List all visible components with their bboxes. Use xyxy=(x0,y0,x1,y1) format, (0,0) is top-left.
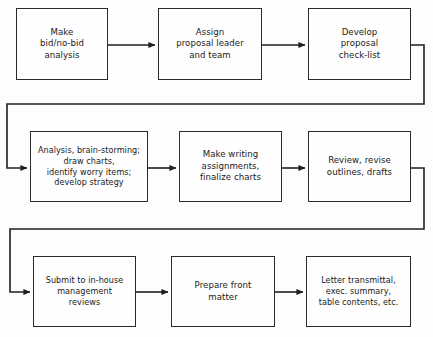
flow-node-submit-to-in-house-management[interactable]: Submit to in-house management reviews xyxy=(33,256,136,327)
flowchart-canvas: Make bid/no-bid analysis Assign proposal… xyxy=(0,0,433,337)
flow-node-label: Make writing assignments, finalize chart… xyxy=(197,149,264,183)
flow-node-label: Prepare front matter xyxy=(192,280,255,303)
flow-node-assign-proposal-leader[interactable]: Assign proposal leader and team xyxy=(158,8,262,80)
flow-node-prepare-front-matter[interactable]: Prepare front matter xyxy=(171,256,275,327)
flow-node-make-bid-no-bid-analysis[interactable]: Make bid/no-bid analysis xyxy=(16,8,108,80)
flow-node-label: Assign proposal leader and team xyxy=(173,27,247,61)
flow-node-develop-proposal-check-list[interactable]: Develop proposal check-list xyxy=(308,8,411,80)
flow-node-letter-transmittal[interactable]: Letter transmittal, exec. summary, table… xyxy=(306,256,411,327)
flow-node-review-revise-outlines[interactable]: Review, revise outlines, drafts xyxy=(308,131,411,202)
flow-node-label: Develop proposal check-list xyxy=(336,27,383,61)
flow-node-analysis-brainstorming[interactable]: Analysis, brain-storming; draw charts, i… xyxy=(30,131,148,202)
flow-node-make-writing-assignments[interactable]: Make writing assignments, finalize chart… xyxy=(179,131,282,202)
flow-node-label: Letter transmittal, exec. summary, table… xyxy=(316,275,402,307)
flow-node-label: Submit to in-house management reviews xyxy=(43,275,127,307)
flow-node-label: Analysis, brain-storming; draw charts, i… xyxy=(35,145,143,188)
flow-node-label: Make bid/no-bid analysis xyxy=(37,27,87,61)
flow-node-label: Review, revise outlines, drafts xyxy=(324,155,395,178)
